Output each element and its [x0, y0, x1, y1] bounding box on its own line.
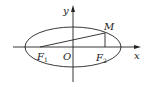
x-axis-arrow-icon — [134, 45, 141, 49]
x-axis-label: x — [134, 50, 140, 61]
y-axis-arrow-icon — [71, 5, 75, 12]
origin-label: O — [63, 51, 71, 62]
focus1-subscript: 1 — [44, 56, 48, 63]
ellipse-diagram: y x O M F 1 F 2 — [0, 0, 149, 87]
focus2-subscript: 2 — [103, 57, 107, 64]
point-m-label: M — [103, 21, 115, 32]
segment-f1-m — [40, 33, 105, 47]
y-axis-label: y — [62, 5, 69, 16]
